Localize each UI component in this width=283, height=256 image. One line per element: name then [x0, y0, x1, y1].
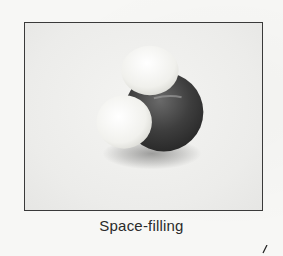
figure-frame — [24, 22, 263, 211]
space-filling-model-image — [25, 23, 262, 210]
figure-caption: Space-filling — [0, 217, 283, 234]
scan-mark-icon — [262, 245, 268, 254]
page: Space-filling — [0, 0, 283, 256]
left-white-atom — [97, 95, 152, 148]
top-white-atom — [121, 46, 178, 95]
